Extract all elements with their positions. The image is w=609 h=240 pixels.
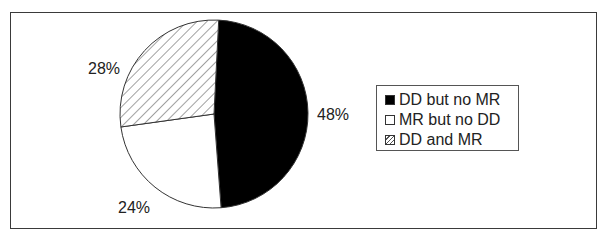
- slice-dd-no-mr: [214, 20, 308, 208]
- legend: DD but no MR MR but no DD DD and MR: [376, 85, 519, 151]
- legend-label: DD and MR: [399, 131, 483, 149]
- slice-mr-no-dd: [121, 114, 221, 208]
- legend-swatch-solid-black: [385, 95, 395, 105]
- legend-item-dd-no-mr: DD but no MR: [385, 90, 518, 110]
- slice-label-dd-no-mr: 48%: [317, 107, 349, 123]
- legend-label: DD but no MR: [399, 91, 500, 109]
- slice-label-mr-no-dd: 24%: [118, 200, 150, 216]
- legend-swatch-hatched: [385, 135, 395, 145]
- legend-item-mr-no-dd: MR but no DD: [385, 110, 518, 130]
- legend-swatch-white: [385, 115, 395, 125]
- legend-item-dd-and-mr: DD and MR: [385, 130, 518, 150]
- slice-label-dd-and-mr: 28%: [88, 61, 120, 77]
- slice-dd-and-mr: [120, 20, 219, 127]
- legend-label: MR but no DD: [399, 111, 500, 129]
